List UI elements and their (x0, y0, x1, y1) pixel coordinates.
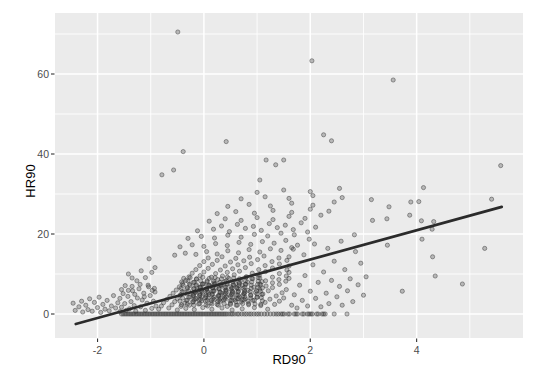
data-point (101, 302, 105, 306)
data-point (295, 243, 299, 247)
data-point (119, 305, 123, 309)
data-point (146, 283, 150, 287)
data-point (268, 297, 272, 301)
data-point (387, 205, 391, 209)
data-point (310, 312, 314, 316)
data-point (176, 30, 180, 34)
data-point (343, 268, 347, 272)
data-point (266, 307, 270, 311)
data-point (77, 305, 81, 309)
plot-panel (55, 13, 523, 338)
data-point (316, 280, 320, 284)
data-point (258, 276, 262, 280)
data-point (300, 298, 304, 302)
data-point (322, 270, 326, 274)
data-point (229, 287, 233, 291)
data-point (270, 275, 274, 279)
data-point (206, 266, 210, 270)
data-point (99, 310, 103, 314)
data-point (287, 196, 291, 200)
data-point (88, 297, 92, 301)
data-point (251, 224, 255, 228)
data-point (272, 241, 276, 245)
data-point (227, 230, 231, 234)
y-tick-label: 40 (37, 148, 49, 160)
data-point (190, 271, 194, 275)
data-point (303, 274, 307, 278)
data-point (129, 300, 133, 304)
data-point (353, 250, 357, 254)
data-point (223, 217, 227, 221)
data-point (280, 291, 284, 295)
data-point (242, 259, 246, 263)
data-point (198, 264, 202, 268)
data-point (178, 245, 182, 249)
data-point (201, 282, 205, 286)
data-point (239, 197, 243, 201)
data-point (240, 307, 244, 311)
data-point (340, 196, 344, 200)
data-point (133, 292, 137, 296)
data-point (308, 207, 312, 211)
data-point (292, 233, 296, 237)
data-point (460, 282, 464, 286)
data-point (211, 297, 215, 301)
data-point (137, 287, 141, 291)
data-point (308, 289, 312, 293)
x-tick-label: 0 (201, 344, 207, 356)
data-point (147, 257, 151, 261)
data-point (215, 258, 219, 262)
x-tick-label: 2 (307, 344, 313, 356)
data-point (323, 312, 327, 316)
data-point (351, 300, 355, 304)
data-point (302, 253, 306, 257)
data-point (258, 250, 262, 254)
data-point (385, 243, 389, 247)
data-point (237, 269, 241, 273)
data-point (312, 242, 316, 246)
data-point (181, 150, 185, 154)
data-point (175, 308, 179, 312)
data-point (322, 133, 326, 137)
data-point (202, 260, 206, 264)
data-point (202, 270, 206, 274)
data-point (194, 283, 198, 287)
data-point (242, 298, 246, 302)
data-point (264, 158, 268, 162)
data-point (270, 281, 274, 285)
data-point (352, 233, 356, 237)
data-point (274, 294, 278, 298)
data-point (490, 197, 494, 201)
data-point (277, 272, 281, 276)
data-point (220, 255, 224, 259)
data-point (303, 216, 307, 220)
data-point (160, 173, 164, 177)
data-point (123, 302, 127, 306)
data-point (258, 178, 262, 182)
data-point (105, 298, 109, 302)
data-point (431, 255, 435, 259)
data-point (150, 270, 154, 274)
data-point (279, 231, 283, 235)
data-point (329, 278, 333, 282)
data-point (282, 158, 286, 162)
data-point (271, 218, 275, 222)
data-point (268, 204, 272, 208)
data-point (235, 222, 239, 226)
data-point (400, 289, 404, 293)
data-point (282, 296, 286, 300)
data-point (192, 298, 196, 302)
data-point (143, 308, 147, 312)
data-point (186, 236, 190, 240)
data-point (143, 276, 147, 280)
data-point (295, 312, 299, 316)
figure: -2024 0204060 RD90 HR90 (0, 0, 543, 384)
data-point (202, 244, 206, 248)
data-point (369, 198, 373, 202)
data-point (299, 221, 303, 225)
data-point (188, 276, 192, 280)
data-point (329, 139, 333, 143)
data-point (311, 203, 315, 207)
data-point (205, 298, 209, 302)
x-axis-title: RD90 (272, 352, 305, 367)
